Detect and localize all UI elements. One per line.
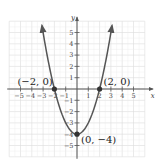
data-points: (−2, 0)(2, 0)(0, −4) [17,76,130,145]
point-label: (−2, 0) [17,76,52,87]
x-tick-label: −4 [26,92,36,100]
x-tick-label: 4 [120,92,124,100]
y-tick-label: 1 [69,74,73,82]
data-point [97,86,102,91]
parabola-chart: −5−4−3−2−11234554321−1−2−3−4−5 x y (−2, … [0,0,162,163]
x-tick-label: −3 [37,92,47,100]
x-tick-label: 3 [109,92,113,100]
y-tick-label: −2 [64,108,74,116]
data-point [52,86,57,91]
axes [7,17,153,159]
data-point [74,132,79,137]
y-tick-label: 5 [69,29,73,37]
point-label: (0, −4) [81,134,116,145]
point-label: (2, 0) [104,76,131,87]
x-tick-label: 1 [86,92,90,100]
y-tick-label: −5 [64,142,74,150]
x-axis-label: x [151,92,155,100]
x-tick-label: 5 [131,92,135,100]
y-tick-label: 2 [69,63,73,71]
y-tick-label: 3 [69,51,73,59]
y-tick-label: 4 [69,40,73,48]
y-tick-label: −1 [64,97,74,105]
x-tick-label: −5 [14,92,24,100]
